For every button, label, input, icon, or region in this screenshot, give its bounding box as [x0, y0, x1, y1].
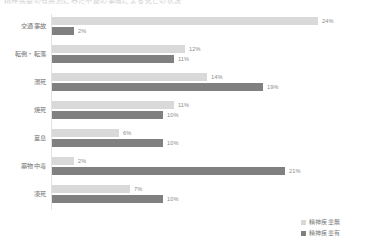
bar-value-label: 10% — [167, 195, 179, 204]
bar-series-0[interactable] — [52, 73, 207, 81]
category-label: 転倒・転落 — [0, 49, 46, 59]
category-label: 薬物中毒 — [0, 161, 46, 171]
category-label: 溺死 — [0, 77, 46, 87]
bar-group: 薬物中毒 2% 21% — [0, 154, 376, 182]
bar-value-label: 11% — [178, 55, 189, 64]
bar-group: 焼死 11% 10% — [0, 98, 376, 126]
category-label: 窒息 — [0, 133, 46, 143]
legend-label: 精神疾患無 — [309, 218, 340, 227]
bar-value-label: 2% — [78, 157, 86, 166]
bar-series-0[interactable] — [52, 101, 174, 109]
chart-title: 精神疾患の有無別にみた不慮の事故による死亡の状況 — [4, 0, 264, 4]
bar-series-1[interactable] — [52, 83, 263, 91]
bar-value-label: 12% — [189, 45, 201, 54]
bar-series-0[interactable] — [52, 129, 119, 137]
bar-series-0[interactable] — [52, 45, 185, 53]
bar-series-1[interactable] — [52, 139, 163, 147]
bar-series-1[interactable] — [52, 111, 163, 119]
bar-value-label: 7% — [134, 185, 142, 194]
legend-swatch-icon — [301, 220, 306, 225]
bar-value-label: 10% — [167, 139, 179, 148]
bar-value-label: 11% — [178, 101, 189, 110]
legend-item-series-0[interactable]: 精神疾患無 — [301, 217, 373, 227]
bar-value-label: 2% — [78, 27, 86, 36]
category-label: 焼死 — [0, 105, 46, 115]
chart-legend: 精神疾患無 精神疾患有 — [301, 216, 373, 238]
bar-value-label: 10% — [167, 111, 179, 120]
bar-series-1[interactable] — [52, 27, 74, 35]
bar-series-0[interactable] — [52, 157, 74, 165]
legend-item-series-1[interactable]: 精神疾患有 — [301, 228, 373, 238]
legend-swatch-icon — [301, 231, 306, 236]
chart-plot-area: 交通事故 24% 2% 転倒・転落 12% 11% 溺死 14% 19% — [0, 14, 376, 210]
bar-group: 交通事故 24% 2% — [0, 14, 376, 42]
bar-series-1[interactable] — [52, 167, 285, 175]
bar-value-label: 14% — [211, 73, 223, 82]
legend-label: 精神疾患有 — [309, 229, 340, 238]
bar-group: 窒息 6% 10% — [0, 126, 376, 154]
bar-value-label: 6% — [123, 129, 131, 138]
category-label: 交通事故 — [0, 21, 46, 31]
bar-series-1[interactable] — [52, 55, 174, 63]
bar-value-label: 21% — [289, 167, 301, 176]
bar-series-0[interactable] — [52, 17, 318, 25]
bar-value-label: 19% — [267, 83, 279, 92]
bar-group: 凍死 7% 10% — [0, 182, 376, 210]
bar-group: 転倒・転落 12% 11% — [0, 42, 376, 70]
bar-value-label: 24% — [322, 17, 334, 26]
bar-series-1[interactable] — [52, 195, 163, 203]
category-label: 凍死 — [0, 189, 46, 199]
bar-series-0[interactable] — [52, 185, 130, 193]
bar-group: 溺死 14% 19% — [0, 70, 376, 98]
